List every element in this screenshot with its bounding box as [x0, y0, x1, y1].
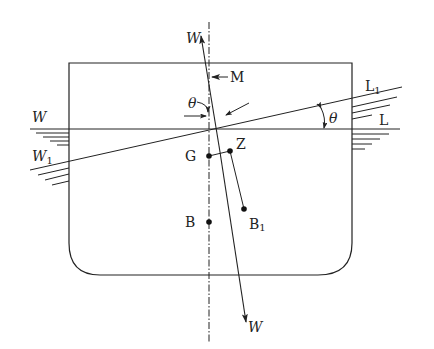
z-b1-line — [230, 151, 244, 209]
water-hatching-left-upright — [36, 133, 69, 145]
label-weight-bottom: W — [248, 319, 264, 335]
ship-stability-diagram: W M θ W W1 L1 L θ G Z B B1 W — [0, 0, 434, 349]
label-buoyancy: B — [185, 214, 195, 230]
water-hatching-right-upright — [352, 134, 389, 149]
label-theta-right: θ — [329, 110, 338, 126]
point-b — [206, 219, 212, 225]
label-gravity: G — [185, 148, 196, 164]
water-hatching-left-inclined — [38, 168, 69, 185]
point-z — [227, 148, 233, 154]
theta-arc-center — [197, 102, 208, 112]
label-inclined-right: L1 — [365, 78, 381, 96]
weight-line-up — [201, 36, 220, 152]
label-inclined-left: W1 — [32, 148, 53, 166]
label-theta-center: θ — [188, 95, 197, 111]
label-buoyancy-inclined: B1 — [249, 216, 266, 233]
weight-line-down — [220, 152, 246, 322]
label-waterline-right: L — [379, 112, 388, 128]
theta-arc-right — [321, 108, 325, 128]
point-b1 — [241, 206, 247, 212]
point-g — [206, 153, 212, 159]
label-weight-top: W — [186, 30, 202, 46]
label-z: Z — [236, 136, 246, 152]
label-waterline-left: W — [32, 109, 48, 125]
water-hatching-right-inclined — [352, 97, 397, 119]
label-metacenter: M — [230, 69, 244, 85]
tilt-pointer — [226, 103, 249, 115]
